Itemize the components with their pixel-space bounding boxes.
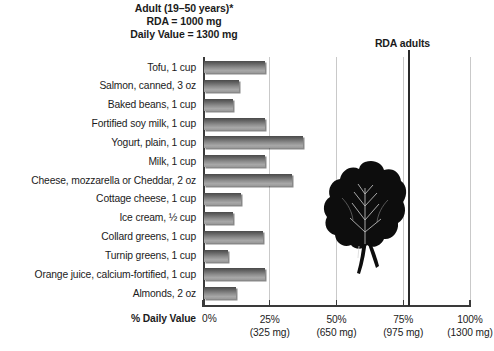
header-line-2: RDA = 1000 mg — [84, 15, 284, 28]
x-tick-label-0: 0% — [202, 313, 217, 324]
x-axis-title: % Daily Value — [131, 313, 196, 324]
bar-row-label: Orange juice, calcium-fortified, 1 cup — [35, 268, 196, 281]
bar — [204, 61, 265, 73]
bar-row: Almonds, 2 oz — [0, 287, 494, 300]
header-line-3: Daily Value = 1300 mg — [84, 28, 284, 41]
bar-row-label: Salmon, canned, 3 oz — [99, 79, 196, 92]
x-tick-milligrams: (1300 mg) — [430, 326, 494, 339]
bar — [204, 193, 241, 205]
bar-row-label: Cottage cheese, 1 cup — [96, 192, 196, 205]
bar-row: Yogurt, plain, 1 cup — [0, 136, 494, 149]
bar-row-label: Cheese, mozzarella or Cheddar, 2 oz — [31, 174, 196, 187]
bar — [204, 136, 303, 148]
bar-row-label: Yogurt, plain, 1 cup — [111, 136, 196, 149]
bar-row: Milk, 1 cup — [0, 155, 494, 168]
bar-row: Ice cream, ½ cup — [0, 211, 494, 224]
bar-row: Collard greens, 1 cup — [0, 230, 494, 243]
bar — [204, 287, 236, 299]
rda-adults-label: RDA adults — [330, 37, 475, 49]
bar — [204, 118, 265, 130]
x-tick-75 — [403, 300, 404, 307]
bar-row: Baked beans, 1 cup — [0, 98, 494, 111]
chart-header-note: Adult (19–50 years)* RDA = 1000 mg Daily… — [84, 2, 284, 42]
bar-row-label: Milk, 1 cup — [148, 155, 196, 168]
bar-row: Tofu, 1 cup — [0, 61, 494, 74]
bar-row-label: Almonds, 2 oz — [133, 287, 196, 300]
bar-row: Salmon, canned, 3 oz — [0, 79, 494, 92]
bar-row: Orange juice, calcium-fortified, 1 cup — [0, 268, 494, 281]
bar — [204, 212, 233, 224]
bar — [204, 80, 239, 92]
bar — [204, 155, 265, 167]
half-fraction-glyph: ½ — [169, 211, 177, 224]
bar-row-label: Tofu, 1 cup — [147, 61, 196, 74]
bar-row-label: Baked beans, 1 cup — [108, 98, 196, 111]
x-tick-percent: 100% — [430, 313, 494, 326]
bar — [204, 99, 233, 111]
x-tick-0 — [202, 300, 203, 307]
bar-row-label: Fortified soy milk, 1 cup — [92, 117, 196, 130]
x-tick-label-100: 100%(1300 mg) — [430, 313, 494, 339]
bar-row-label: Turnip greens, 1 cup — [105, 249, 196, 262]
bar — [204, 174, 292, 186]
bar — [204, 268, 265, 280]
bar — [204, 231, 263, 243]
x-tick-50 — [336, 300, 337, 307]
bar-row: Turnip greens, 1 cup — [0, 249, 494, 262]
x-tick-100 — [469, 300, 470, 307]
x-tick-25 — [269, 300, 270, 307]
bar-row: Cottage cheese, 1 cup — [0, 192, 494, 205]
bar-row-label: Ice cream, ½ cup — [119, 211, 196, 224]
bar — [204, 250, 228, 262]
calcium-daily-value-chart: Adult (19–50 years)* RDA = 1000 mg Daily… — [0, 0, 494, 351]
bar-row: Fortified soy milk, 1 cup — [0, 117, 494, 130]
bar-row-label: Collard greens, 1 cup — [101, 230, 196, 243]
bar-row: Cheese, mozzarella or Cheddar, 2 oz — [0, 174, 494, 187]
header-line-1: Adult (19–50 years)* — [84, 2, 284, 15]
